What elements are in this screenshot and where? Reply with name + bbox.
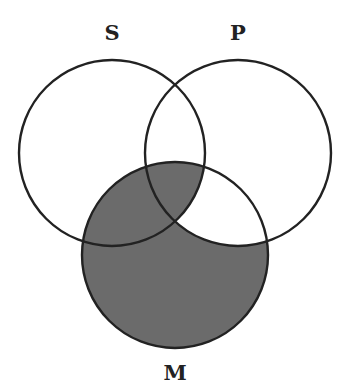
venn-diagram: S P M (0, 0, 351, 388)
label-s: S (104, 20, 119, 45)
shaded-region (0, 0, 351, 388)
label-p: P (230, 20, 246, 45)
label-m: M (163, 360, 186, 385)
